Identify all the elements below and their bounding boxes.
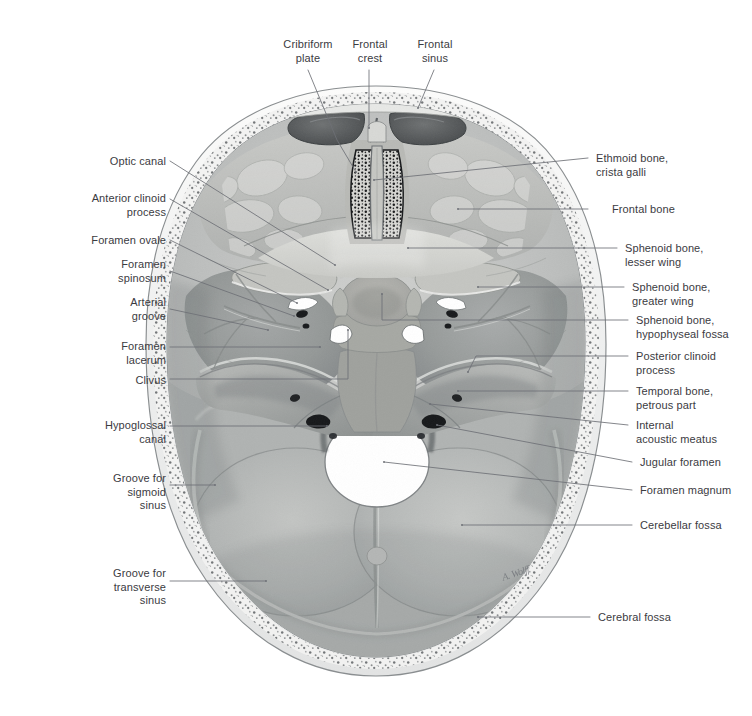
label-foramen-lacerum: Foramen lacerum (62, 340, 166, 367)
label-cribriform-plate: Cribriform plate (270, 38, 346, 65)
label-posterior-clinoid-process: Posterior clinoid process (636, 350, 752, 377)
label-sphenoid-bone-hypophyseal-fossa: Sphenoid bone, hypophyseal fossa (636, 314, 752, 341)
label-frontal-crest: Frontal crest (343, 38, 397, 65)
label-anterior-clinoid-process: Anterior clinoid process (28, 192, 166, 219)
label-frontal-bone: Frontal bone (612, 203, 746, 217)
label-groove-sigmoid-sinus: Groove for sigmoid sinus (62, 472, 166, 513)
label-foramen-magnum: Foramen magnum (640, 484, 752, 498)
label-hypoglossal-canal: Hypoglossal canal (40, 419, 166, 446)
label-ethmoid-bone-crista-galli: Ethmoid bone, crista galli (596, 152, 746, 179)
label-clivus: Clivus (111, 374, 166, 388)
label-internal-acoustic-meatus: Internal acoustic meatus (636, 419, 752, 446)
label-sphenoid-bone-lesser-wing: Sphenoid bone, lesser wing (625, 242, 752, 269)
label-optic-canal: Optic canal (78, 155, 166, 169)
label-frontal-sinus: Frontal sinus (408, 38, 462, 65)
label-cerebellar-fossa: Cerebellar fossa (640, 519, 752, 533)
label-foramen-spinosum: Foramen spinosum (62, 258, 166, 285)
label-sphenoid-bone-greater-wing: Sphenoid bone, greater wing (632, 281, 752, 308)
label-foramen-ovale: Foramen ovale (48, 234, 166, 248)
label-groove-transverse-sinus: Groove for transverse sinus (55, 567, 166, 608)
label-cerebral-fossa: Cerebral fossa (598, 611, 748, 625)
label-temporal-bone-petrous-part: Temporal bone, petrous part (636, 385, 752, 412)
label-arterial-groove: Arterial groove (78, 296, 166, 323)
label-jugular-foramen: Jugular foramen (640, 456, 752, 470)
anatomical-figure: Cribriform plateFrontal crestFrontal sin… (0, 0, 752, 716)
